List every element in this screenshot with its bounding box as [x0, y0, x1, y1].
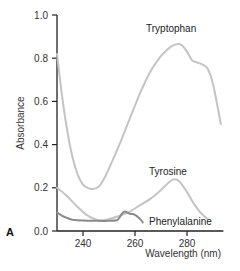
- series-line-tryptophan: [57, 44, 221, 189]
- y-tick-label: 0.4: [34, 139, 48, 150]
- x-tick-label: 240: [75, 238, 92, 249]
- series-line-phenylalanine: [57, 212, 143, 223]
- y-tick-label: 0.6: [34, 96, 48, 107]
- x-ticks: 240260280: [75, 231, 196, 249]
- series-label-tyrosine: Tyrosine: [149, 166, 187, 177]
- series-label-tryptophan: Tryptophan: [146, 23, 196, 34]
- axes: [57, 15, 223, 231]
- y-ticks: 0.00.20.40.60.81.0: [34, 10, 57, 237]
- y-tick-label: 0.0: [34, 226, 48, 237]
- x-axis-title: Wavelength (nm): [145, 248, 221, 259]
- panel-label: A: [6, 226, 14, 238]
- y-tick-label: 0.8: [34, 53, 48, 64]
- y-axis-title: Absorbance: [15, 96, 26, 150]
- y-tick-label: 0.2: [34, 182, 48, 193]
- y-tick-label: 1.0: [34, 10, 48, 21]
- series-lines: [57, 44, 221, 222]
- absorbance-chart: 0.00.20.40.60.81.0 240260280 Absorbance …: [0, 0, 240, 271]
- series-label-phenylalanine: Phenylalanine: [149, 216, 212, 227]
- x-tick-label: 260: [127, 238, 144, 249]
